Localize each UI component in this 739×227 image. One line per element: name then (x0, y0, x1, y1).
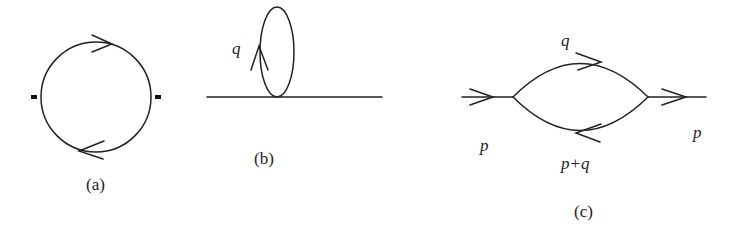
arrow-right-icon (576, 53, 601, 70)
right-insertion-mark (155, 95, 161, 99)
caption-c: (c) (574, 203, 593, 220)
diagram-a (31, 35, 161, 159)
label-q-upper: q (561, 32, 570, 49)
left-insertion-mark (31, 95, 37, 99)
diagram-c (462, 53, 706, 142)
caption-a: (a) (86, 176, 105, 193)
feynman-diagrams (0, 0, 739, 227)
arrow-left-icon (576, 124, 601, 142)
label-p-in: p (480, 137, 489, 154)
label-q-loop: q (232, 40, 241, 57)
loop-circle (41, 42, 151, 152)
caption-b: (b) (254, 150, 274, 167)
arrow-left-icon (79, 141, 104, 159)
label-p-out: p (693, 124, 702, 141)
label-p-plus-q: p+q (561, 155, 589, 172)
tadpole-loop (260, 7, 294, 97)
lower-propagator (513, 97, 648, 131)
